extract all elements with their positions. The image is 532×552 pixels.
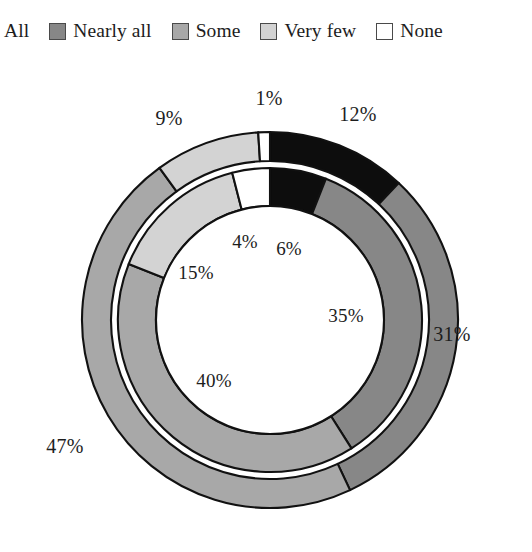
pct-label-inner-all: 6%: [276, 238, 302, 260]
pct-label-inner-very-few: 15%: [178, 262, 213, 284]
legend-swatch-nearly-all: [49, 23, 66, 40]
pct-label-inner-none: 4%: [232, 231, 258, 253]
donut-chart: 12%31%47%9%1% 6%35%40%15%4%: [0, 48, 532, 552]
legend-item-nearly-all[interactable]: Nearly all: [49, 20, 171, 42]
legend-item-none[interactable]: None: [376, 20, 463, 42]
legend-label: All: [4, 20, 29, 42]
pct-label-inner-some: 40%: [196, 370, 231, 392]
legend-swatch-none: [376, 23, 393, 40]
legend-item-some[interactable]: Some: [172, 20, 261, 42]
legend-swatch-some: [172, 23, 189, 40]
pct-label-inner-nearly-all: 35%: [328, 305, 363, 327]
chart-legend: AllNearly allSomeVery fewNone: [0, 14, 532, 48]
pct-label-outer-some: 47%: [46, 435, 83, 458]
legend-label: None: [400, 20, 443, 42]
pct-label-outer-all: 12%: [339, 103, 376, 126]
legend-label: Very few: [284, 20, 356, 42]
pct-label-outer-none: 1%: [255, 87, 282, 110]
legend-swatch-very-few: [260, 23, 277, 40]
pct-label-outer-nearly-all: 31%: [433, 323, 470, 346]
pct-label-outer-very-few: 9%: [155, 107, 182, 130]
legend-item-very-few[interactable]: Very few: [260, 20, 376, 42]
legend-item-all[interactable]: All: [0, 20, 49, 42]
donut-chart-svg: [0, 48, 532, 552]
slice-outer-none[interactable]: [258, 132, 270, 161]
legend-label: Nearly all: [73, 20, 151, 42]
legend-label: Some: [196, 20, 241, 42]
